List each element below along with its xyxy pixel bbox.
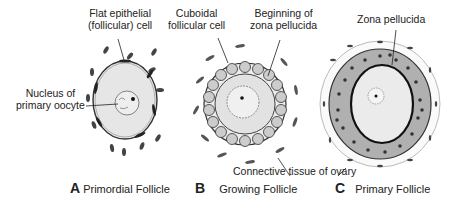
label-line: zona pellucida: [250, 19, 317, 31]
caption-c: CPrimary Follicle: [335, 180, 430, 196]
label-zona-pellucida: Zona pellucida: [357, 13, 425, 25]
panel-letter: A: [70, 180, 80, 196]
panel-letter: B: [195, 180, 205, 196]
label-line: (follicular) cell: [88, 19, 152, 31]
caption-a: APrimordial Follicle: [70, 180, 170, 196]
panel-title: Primordial Follicle: [83, 183, 170, 195]
label-connective-tissue: Connective tissue of ovary: [233, 165, 356, 177]
label-flat-epithelial-cell: Flat epithelial (follicular) cell: [88, 7, 152, 31]
label-line: Nucleus of: [16, 87, 85, 99]
follicle-diagram: Flat epithelial (follicular) cell Nucleu…: [0, 0, 451, 203]
label-cuboidal-follicular-cell: Cuboidal follicular cell: [168, 7, 225, 31]
label-beginning-zona-pellucida: Beginning of zona pellucida: [250, 7, 317, 31]
label-line: follicular cell: [168, 19, 225, 31]
caption-b: BGrowing Follicle: [195, 180, 297, 196]
primary-follicle-drawing: [320, 30, 440, 176]
label-line: Cuboidal: [168, 7, 225, 19]
panel-letter: C: [335, 180, 345, 196]
label-line: primary oocyte: [16, 99, 85, 111]
panel-title: Primary Follicle: [355, 183, 430, 195]
label-line: Flat epithelial: [88, 7, 152, 19]
panel-title: Growing Follicle: [219, 183, 297, 195]
growing-follicle-drawing: [192, 38, 298, 176]
primordial-follicle-drawing: [86, 39, 164, 156]
label-line: Beginning of: [250, 7, 317, 19]
label-nucleus-primary-oocyte: Nucleus of primary oocyte: [16, 87, 85, 111]
